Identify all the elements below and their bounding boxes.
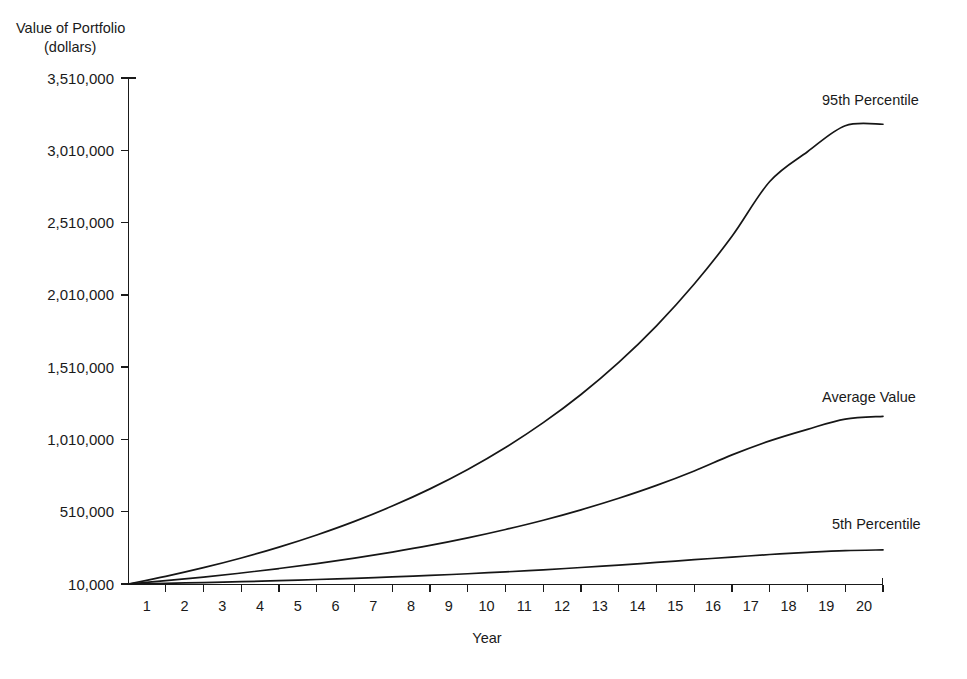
- x-tick-label: 9: [445, 598, 453, 614]
- series-label-average-value: Average Value: [822, 389, 916, 405]
- x-tick-label: 8: [407, 598, 415, 614]
- x-tick-label: 6: [332, 598, 340, 614]
- x-axis-title: Year: [472, 630, 501, 646]
- x-tick-label: 14: [630, 598, 646, 614]
- series-label-5th-percentile: 5th Percentile: [832, 516, 921, 532]
- series-label-95th-percentile: 95th Percentile: [822, 92, 919, 108]
- x-tick-label: 19: [818, 598, 834, 614]
- chart-canvas: Value of Portfolio (dollars) 10,000510,0…: [0, 0, 967, 679]
- x-tick-label: 16: [705, 598, 721, 614]
- x-tick-label: 7: [369, 598, 377, 614]
- y-tick-label: 510,000: [60, 503, 114, 520]
- x-tick-label: 15: [667, 598, 683, 614]
- series-line-5th-percentile: [128, 550, 883, 584]
- x-tick-label: 13: [592, 598, 608, 614]
- portfolio-projection-chart: Value of Portfolio (dollars) 10,000510,0…: [0, 0, 967, 679]
- y-axis-title: Value of Portfolio (dollars): [16, 20, 125, 55]
- x-tick-label: 12: [554, 598, 570, 614]
- y-tick-label: 3,510,000: [47, 70, 114, 87]
- x-tick-label: 11: [517, 598, 532, 614]
- y-axis-ticks: 10,000510,0001,010,0001,510,0002,010,000…: [47, 70, 128, 593]
- x-tick-label: 4: [256, 598, 264, 614]
- x-axis-ticks: [166, 585, 883, 593]
- y-tick-label: 1,010,000: [47, 431, 114, 448]
- x-tick-label: 10: [479, 598, 495, 614]
- y-tick-label: 10,000: [68, 576, 114, 593]
- x-tick-label: 5: [294, 598, 302, 614]
- y-axis-title-line2: (dollars): [44, 39, 96, 55]
- series-line-95th-percentile: [128, 123, 883, 584]
- y-tick-label: 2,510,000: [47, 214, 114, 231]
- y-tick-label: 3,010,000: [47, 142, 114, 159]
- y-axis-title-line1: Value of Portfolio: [16, 20, 125, 36]
- series-lines: [128, 123, 883, 584]
- x-tick-label: 3: [218, 598, 226, 614]
- x-tick-label: 2: [181, 598, 189, 614]
- x-tick-label: 18: [781, 598, 797, 614]
- y-tick-label: 2,010,000: [47, 286, 114, 303]
- x-tick-label: 17: [743, 598, 759, 614]
- x-tick-label: 20: [856, 598, 872, 614]
- y-tick-label: 1,510,000: [47, 359, 114, 376]
- x-axis-tick-labels: 1234567891011121314151617181920: [143, 598, 872, 614]
- x-tick-label: 1: [143, 598, 151, 614]
